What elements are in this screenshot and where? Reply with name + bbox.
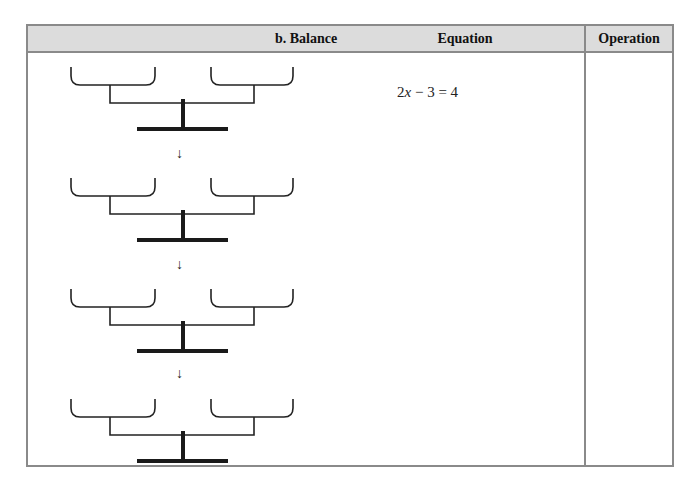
down-arrow-icon: ↓	[176, 258, 183, 272]
header-operation: Operation	[584, 26, 674, 51]
balance-scale-icon	[0, 282, 360, 362]
down-arrow-icon: ↓	[176, 367, 183, 381]
balance-scale-icon	[0, 171, 360, 251]
table-header: b. Balance	[28, 26, 672, 53]
header-equation: Equation	[380, 26, 550, 51]
balance-scale-icon	[0, 392, 360, 472]
equation-text: 2x − 3 = 4	[397, 84, 458, 101]
down-arrow-icon: ↓	[176, 147, 183, 161]
column-divider	[584, 26, 586, 465]
balance-scale-icon	[0, 60, 360, 140]
